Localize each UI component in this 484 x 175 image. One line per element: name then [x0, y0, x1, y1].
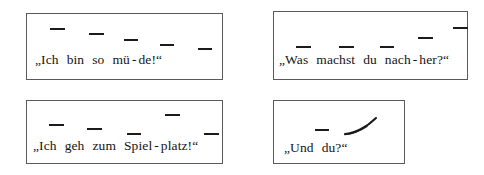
syllable: mü: [112, 52, 129, 68]
closing-quote: “: [443, 52, 449, 68]
syllable: platz!: [161, 138, 192, 154]
syllable: Und: [290, 140, 314, 156]
syllable: so: [92, 52, 104, 68]
pitch-contour: [274, 12, 467, 79]
syllable: bin: [67, 52, 85, 68]
syllable: Ich: [41, 52, 59, 68]
syllable: geh: [65, 138, 85, 154]
syllable: nach: [385, 52, 411, 68]
syllable: Ich: [39, 138, 57, 154]
pitch-dash: [124, 39, 138, 41]
sentence-line: „Wasmachstdunach-her?“: [274, 52, 467, 68]
pitch-dash: [296, 46, 311, 48]
pitch-dash: [89, 33, 104, 35]
pitch-contour: [27, 14, 222, 79]
sentence-line: „Ichbinsomü-de!“: [27, 52, 222, 68]
sentence-line: „IchgehzumSpiel-platz!“: [27, 138, 222, 154]
syllable: du?: [322, 140, 342, 156]
intonation-exercise-sheet: „Ichbinsomü-de!“„Wasmachstdunach-her?“„I…: [0, 0, 484, 175]
syllable-hyphen: -: [154, 138, 159, 154]
pitch-dash: [315, 129, 329, 131]
pitch-dash: [380, 46, 394, 48]
syllable: her?: [419, 52, 443, 68]
pitch-rising-curve: [344, 117, 380, 137]
closing-quote: “: [341, 140, 347, 156]
pitch-dash: [418, 37, 433, 39]
pitch-dash: [160, 44, 174, 46]
syllable: zum: [92, 138, 116, 154]
box-steigend-unddu: „Unddu?“: [273, 100, 405, 164]
syllable: machst: [316, 52, 355, 68]
pitch-dash: [453, 27, 468, 29]
pitch-dash: [87, 128, 102, 130]
syllable-hyphen: -: [132, 52, 137, 68]
pitch-dash: [49, 124, 64, 126]
syllable: du: [363, 52, 377, 68]
pitch-dash: [127, 133, 141, 135]
box-steigend-nachher: „Wasmachstdunach-her?“: [273, 11, 468, 80]
syllable: Was: [285, 52, 308, 68]
pitch-dash: [204, 133, 219, 135]
syllable: de!: [138, 52, 156, 68]
syllable-hyphen: -: [413, 52, 418, 68]
syllable: Spiel: [124, 138, 152, 154]
pitch-dash: [165, 114, 180, 116]
pitch-dash: [198, 48, 212, 50]
box-gipfel-spielplatz: „IchgehzumSpiel-platz!“: [26, 100, 223, 164]
pitch-dash: [50, 28, 65, 30]
box-fallend-mued: „Ichbinsomü-de!“: [26, 13, 223, 80]
closing-quote: “: [156, 52, 162, 68]
closing-quote: “: [192, 138, 198, 154]
pitch-dash: [339, 46, 354, 48]
sentence-line: „Unddu?“: [274, 140, 404, 156]
